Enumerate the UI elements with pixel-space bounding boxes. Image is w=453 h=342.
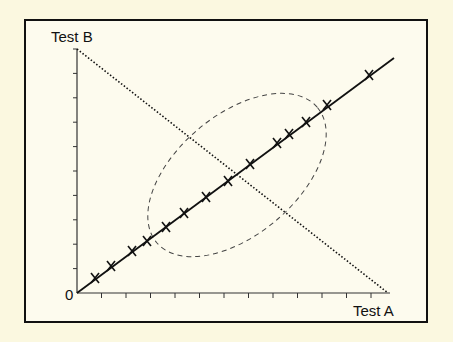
cross-marker-icon (202, 192, 210, 202)
cross-marker-icon (143, 236, 151, 246)
cross-marker-icon (180, 208, 188, 218)
disagreement-line (77, 49, 388, 293)
cross-marker-icon (224, 176, 232, 186)
cross-marker-icon (246, 159, 254, 169)
y-axis-label: Test B (51, 28, 93, 45)
axis-ticks (73, 49, 371, 298)
cross-marker-icon (162, 222, 170, 232)
identity-line (77, 58, 394, 293)
x-axis-label: Test A (353, 302, 394, 319)
origin-label: 0 (65, 286, 73, 303)
